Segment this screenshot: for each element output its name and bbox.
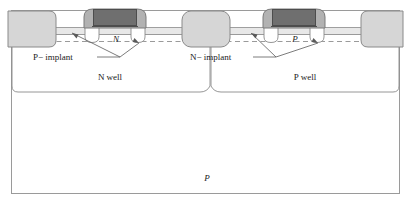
nmos-channel-label: N — [112, 34, 120, 44]
contact-right — [361, 11, 403, 47]
junction-pocket-nmos-right — [131, 28, 145, 43]
cmos-cross-section-diagram: N P P− implant N− implant N well P well … — [0, 0, 411, 204]
junction-pocket-pmos-right — [310, 28, 324, 43]
figure-canvas: N P P− implant N− implant N well P well … — [0, 0, 411, 204]
contact-center — [182, 11, 230, 47]
n-well-label: N well — [98, 72, 123, 82]
nmos-polysilicon-gate — [94, 10, 137, 26]
pmos-polysilicon-gate — [273, 10, 316, 26]
p-minus-implant-label: P− implant — [33, 52, 73, 62]
pmos-channel-label: P — [291, 34, 298, 44]
contact-left — [8, 11, 56, 47]
substrate-label: P — [203, 173, 210, 183]
n-minus-implant-label: N− implant — [190, 52, 232, 62]
junction-pocket-pmos-left — [264, 28, 278, 43]
p-well-label: P well — [294, 72, 317, 82]
